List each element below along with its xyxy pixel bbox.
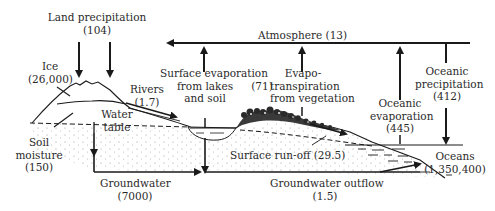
oceanic-evaporation-label: Oceanic evaporation (445) bbox=[370, 97, 430, 135]
groundwater-label: Groundwater (7000) bbox=[100, 177, 170, 202]
soil-moisture-label: Soil moisture (150) bbox=[14, 136, 64, 174]
land-precipitation-label: Land precipitation (104) bbox=[43, 11, 151, 36]
rivers-label: Rivers (1.7) bbox=[130, 83, 164, 108]
oceanic-precipitation-label: Oceanic precipitation (412) bbox=[415, 65, 479, 103]
ice-label: Ice (26,000) bbox=[28, 60, 72, 85]
surface-evaporation-label: Surface evaporation from lakes and soil bbox=[160, 67, 250, 105]
oceans-label: Oceans (1,350,400) bbox=[420, 150, 490, 175]
evapotranspiration-label: Evapo- transpiration from vegetation bbox=[270, 67, 336, 105]
atmosphere-label: Atmosphere (13) bbox=[258, 29, 338, 42]
land-precipitation-arrows bbox=[79, 42, 110, 76]
surface-runoff-label: Surface run-off (29.5) bbox=[230, 149, 340, 162]
water-table-label: Water table bbox=[100, 108, 134, 133]
groundwater-outflow-label: Groundwater outflow (1.5) bbox=[270, 177, 380, 202]
